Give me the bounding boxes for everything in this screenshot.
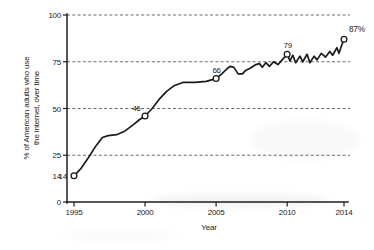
y-axis-title-line1: % of American adults who use <box>22 56 31 160</box>
annotation-79: 79 <box>283 41 292 50</box>
annotation-66: 66 <box>212 66 221 75</box>
x-tick-label-2005: 2005 <box>208 208 226 217</box>
marker-2010 <box>284 51 290 57</box>
data-point-labels: 1446667987% <box>59 24 366 181</box>
annotation-87pct: 87% <box>349 24 366 34</box>
marker-2000 <box>142 113 148 119</box>
x-tick-label-2010: 2010 <box>279 208 297 217</box>
y-tick-label-100: 100 <box>48 11 61 20</box>
marker-2005 <box>213 76 219 82</box>
x-tick-label-2014: 2014 <box>336 208 354 217</box>
y-value-label-14: 14 <box>53 172 62 181</box>
x-axis-title: Year <box>201 223 217 232</box>
y-axis-title-line2: the internet, over time <box>32 70 41 145</box>
x-tick-label-2000: 2000 <box>137 208 155 217</box>
y-tick-label-50: 50 <box>53 105 62 114</box>
y-axis-tick-labels: 025507510014 <box>48 11 61 207</box>
y-tick-label-0: 0 <box>57 198 62 207</box>
y-tick-label-75: 75 <box>53 58 62 67</box>
grid-lines <box>67 15 350 155</box>
data-series-line <box>74 39 344 176</box>
y-tick-label-25: 25 <box>53 151 62 160</box>
marker-2014 <box>341 36 347 42</box>
x-tick-label-1995: 1995 <box>66 208 84 217</box>
series-polyline <box>74 39 344 176</box>
marker-1995 <box>71 173 77 179</box>
x-axis-tick-labels: 19952000200520102014 <box>66 208 354 217</box>
internet-usage-line-chart: 1446667987% 19952000200520102014 0255075… <box>0 0 374 250</box>
annotation-46: 46 <box>132 104 141 113</box>
